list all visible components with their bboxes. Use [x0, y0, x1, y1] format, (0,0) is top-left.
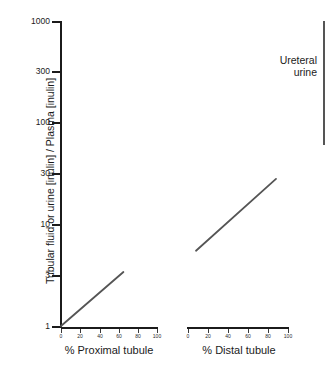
x-axis-tick-label: 40 — [220, 334, 236, 339]
y-axis-title: Tubular fluid or urine [inulin] / Plasma… — [44, 31, 56, 331]
data-line-distal — [196, 179, 276, 251]
x-axis-title-proximal: % Proximal tubule — [49, 344, 169, 356]
chart-figure: 1000 300 100 30 10 3 1 Tubular fluid or … — [0, 0, 333, 384]
x-axis-tick-label: 60 — [111, 334, 127, 339]
x-axis-tick-label: 80 — [260, 334, 276, 339]
x-axis-line-proximal — [61, 327, 158, 329]
x-axis-title-distal: % Distal tubule — [182, 344, 296, 356]
x-axis-line-distal — [187, 327, 289, 329]
x-axis-tick-label: 100 — [149, 334, 165, 339]
ureteral-urine-label-line2: urine — [255, 66, 317, 78]
x-axis-tick-label: 20 — [72, 334, 88, 339]
x-axis-tick-label: 0 — [180, 334, 196, 339]
x-axis-tick-label: 40 — [92, 334, 108, 339]
y-axis-tick-label-wrap: 1000 — [10, 17, 50, 27]
x-axis-tick-label: 0 — [53, 334, 69, 339]
ureteral-urine-label-line1: Ureteral — [255, 54, 317, 66]
y-axis-line — [60, 21, 62, 328]
x-axis-tick-label: 80 — [130, 334, 146, 339]
x-axis-tick-label: 20 — [200, 334, 216, 339]
y-axis-tick — [52, 21, 60, 23]
data-line-proximal — [61, 272, 123, 326]
ureteral-urine-label: Ureteral urine — [255, 54, 317, 78]
x-axis-tick-label: 100 — [280, 334, 296, 339]
y-axis-tick-label: 1000 — [16, 17, 50, 26]
x-axis-tick-label: 60 — [240, 334, 256, 339]
ureteral-urine-range-bar — [323, 21, 325, 145]
